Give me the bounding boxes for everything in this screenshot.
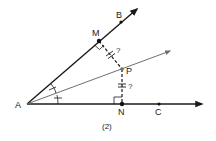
question-mark-mp: ? — [116, 46, 121, 55]
question-mark-pn: ? — [128, 82, 133, 91]
point-m — [97, 39, 101, 43]
point-n — [120, 102, 124, 106]
point-p — [120, 67, 124, 71]
label-b: B — [116, 10, 122, 20]
point-c — [157, 102, 160, 105]
label-c: C — [155, 107, 162, 117]
figure-caption: (2) — [102, 122, 112, 131]
bisector-ray-ap — [27, 51, 170, 104]
label-m: M — [92, 28, 100, 38]
angle-marks-a — [49, 84, 62, 104]
label-a: A — [15, 100, 21, 110]
angle-bisector-diagram: A M B P N C ? ? (2) — [0, 0, 216, 141]
points — [97, 20, 161, 106]
point-b — [119, 20, 122, 23]
label-p: P — [126, 66, 132, 76]
label-n: N — [118, 107, 125, 117]
